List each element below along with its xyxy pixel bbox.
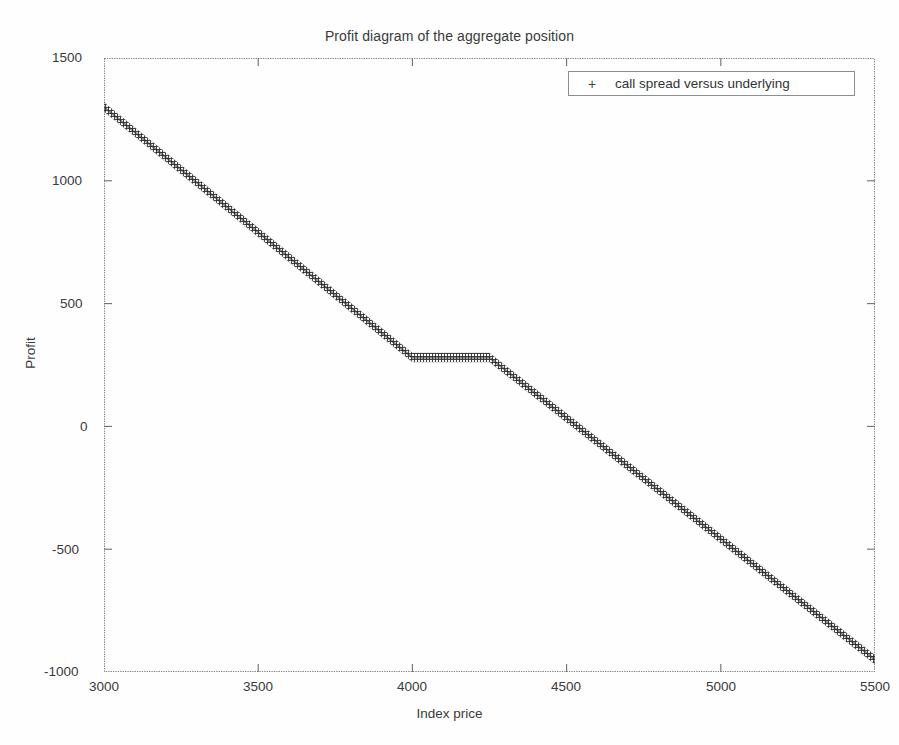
plus-marker-icon: + [569,77,615,91]
plot-area [104,58,875,672]
axis-ticks [104,58,875,672]
axis-box [105,59,875,672]
legend-item-label: call spread versus underlying [615,76,790,91]
figure-canvas: Profit diagram of the aggregate position… [0,0,899,745]
chart-plot-svg [104,58,875,672]
x-tick-label: 3500 [234,679,282,694]
series-call-spread-versus-underlying [104,103,875,665]
chart-legend[interactable]: + call spread versus underlying [568,71,855,96]
x-tick-label: 5500 [851,679,899,694]
x-tick-label: 4500 [542,679,590,694]
x-tick-label: 3000 [80,679,128,694]
x-tick-label: 4000 [388,679,436,694]
x-tick-label: 5000 [697,679,745,694]
